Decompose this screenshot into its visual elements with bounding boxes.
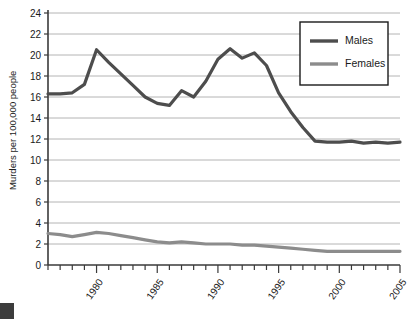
y-tick-label: 12: [30, 134, 42, 145]
y-tick-label: 4: [35, 218, 41, 229]
x-tick-label: 2000: [326, 276, 348, 301]
y-axis-label-text: Murders per 100,000 people: [7, 71, 18, 190]
y-axis-label: Murders per 100,000 people: [7, 71, 18, 190]
x-tick-label: 1985: [144, 276, 166, 301]
legend-box: [300, 22, 388, 85]
y-tick-label: 14: [30, 113, 42, 124]
chart-canvas: 024681012141618202224 198019851990199520…: [0, 0, 410, 319]
x-tick-label: 1990: [205, 276, 227, 301]
y-tick-label: 8: [35, 176, 41, 187]
y-tick-label: 22: [30, 29, 42, 40]
chart-legend: MalesFemales: [300, 22, 388, 85]
x-axis-ticks: 198019851990199520002005: [48, 265, 409, 301]
series-line-females: [48, 232, 400, 251]
y-tick-label: 18: [30, 71, 42, 82]
x-tick-label: 1980: [83, 276, 105, 301]
y-tick-label: 20: [30, 50, 42, 61]
line-chart: 024681012141618202224 198019851990199520…: [0, 0, 410, 319]
y-tick-label: 24: [30, 8, 42, 19]
legend-label-males: Males: [345, 34, 373, 46]
y-axis-ticks: 024681012141618202224: [30, 8, 48, 271]
y-tick-label: 0: [35, 260, 41, 271]
legend-label-females: Females: [345, 57, 385, 69]
y-tick-label: 2: [35, 239, 41, 250]
page-corner-mark: [0, 303, 14, 319]
x-tick-label: 1995: [265, 276, 287, 301]
y-tick-label: 10: [30, 155, 42, 166]
x-tick-label: 2005: [387, 276, 409, 301]
y-tick-label: 16: [30, 92, 42, 103]
y-tick-label: 6: [35, 197, 41, 208]
